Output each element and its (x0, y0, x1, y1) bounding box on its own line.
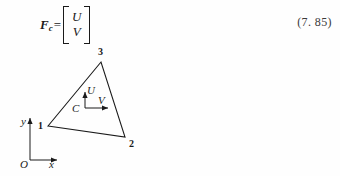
node-label-3: 3 (98, 47, 103, 57)
force-vector-symbol: F (40, 17, 49, 32)
figure-page: Fc = U V (7. 85) 1 (0, 0, 340, 176)
local-axis-v-label: V (98, 95, 105, 106)
equation-lhs: Fc (40, 18, 53, 33)
equation-block: Fc = U V (7. 85) (0, 4, 340, 44)
node-label-1: 1 (38, 121, 43, 131)
equals-sign: = (54, 17, 61, 33)
matrix-cell-u: U (72, 9, 81, 24)
matrix-cell-v: V (73, 24, 81, 39)
force-vector-subscript: c (49, 23, 53, 33)
centroid-label-c: C (72, 103, 79, 114)
triangle-element-figure: 1 2 3 C U V y x O (0, 40, 340, 176)
local-axis-u-label: U (87, 85, 95, 96)
column-matrix: U V (63, 6, 90, 42)
global-origin-label: O (20, 159, 28, 170)
figure-canvas (0, 40, 340, 176)
equation-expression: Fc = U V (40, 4, 90, 44)
node-label-2: 2 (129, 139, 134, 149)
global-axis-x-label: x (49, 159, 54, 170)
global-axis-y-label: y (21, 116, 26, 127)
equation-number: (7. 85) (297, 15, 332, 30)
triangle-element-outline (48, 62, 125, 137)
